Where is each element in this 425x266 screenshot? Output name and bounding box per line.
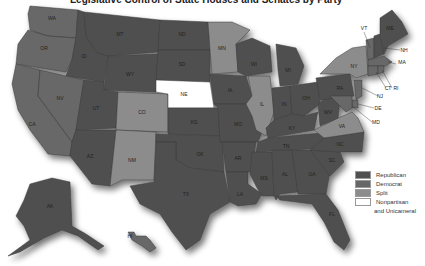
label-NM: NM: [128, 157, 136, 163]
label-PA: PA: [337, 85, 344, 91]
label-HI: HI: [128, 233, 133, 239]
legend-label-unicameral: and Unicameral: [355, 207, 416, 215]
legend-item-democrat: Democrat: [355, 180, 416, 188]
label-IN: IN: [282, 101, 287, 107]
label-AL: AL: [282, 171, 288, 177]
legend-swatch-nonpartisan: [355, 198, 371, 206]
label-CO: CO: [138, 109, 146, 115]
label-NY: NY: [351, 63, 359, 69]
state-CT[interactable]: [368, 66, 378, 76]
label-KS: KS: [191, 119, 198, 125]
label-SD: SD: [179, 61, 186, 67]
label-MN: MN: [218, 45, 226, 51]
legend-item-split: Split: [355, 189, 416, 197]
label-ND: ND: [178, 31, 186, 37]
label-MI: MI: [285, 67, 291, 73]
label-AK: AK: [47, 203, 54, 209]
label-LA: LA: [237, 191, 244, 197]
label-OH: OH: [302, 95, 310, 101]
state-AK[interactable]: [8, 178, 104, 256]
legend-label-democrat: Democrat: [376, 181, 402, 187]
legend-label-nonpartisan: Nonpartisan: [376, 199, 408, 205]
label-WV: WV: [324, 109, 333, 115]
map-legend: Republican Democrat Split Nonpartisan an…: [355, 171, 416, 215]
label-MT: MT: [116, 31, 123, 37]
state-MI[interactable]: [276, 44, 304, 86]
state-RI[interactable]: [378, 66, 384, 74]
label-OK: OK: [196, 151, 204, 157]
label-KY: KY: [289, 125, 296, 131]
label-CT: CT: [385, 85, 392, 91]
label-IA: IA: [228, 87, 233, 93]
label-NE: NE: [181, 91, 189, 97]
label-UT: UT: [93, 105, 100, 111]
legend-swatch-democrat: [355, 180, 371, 188]
label-TX: TX: [183, 191, 190, 197]
label-GA: GA: [308, 171, 316, 177]
label-MA: MA: [398, 59, 406, 65]
label-WA: WA: [48, 15, 57, 21]
label-NV: NV: [57, 95, 65, 101]
legend-label-split: Split: [376, 190, 388, 196]
legend-item-nonpartisan: Nonpartisan: [355, 198, 416, 206]
label-WY: WY: [126, 71, 135, 77]
label-DE: DE: [375, 105, 383, 111]
label-MS: MS: [260, 175, 268, 181]
label-OR: OR: [40, 45, 48, 51]
label-CA: CA: [29, 121, 37, 127]
label-NC: NC: [336, 141, 344, 147]
label-MD: MD: [372, 119, 380, 125]
label-IL: IL: [260, 101, 264, 107]
label-SC: SC: [329, 157, 336, 163]
state-WI[interactable]: [236, 38, 272, 76]
legend-swatch-republican: [355, 171, 371, 179]
state-SD[interactable]: [156, 50, 210, 84]
label-VA: VA: [339, 123, 346, 129]
label-TN: TN: [283, 143, 290, 149]
us-state-map: WA OR CA ID NV MT WY UT CO AZ NM ND SD N…: [0, 0, 425, 266]
legend-item-republican: Republican: [355, 171, 416, 179]
state-NY[interactable]: [320, 46, 368, 78]
legend-swatch-split: [355, 189, 371, 197]
label-MO: MO: [234, 121, 242, 127]
legend-label-republican: Republican: [376, 172, 406, 178]
label-FL: FL: [329, 211, 335, 217]
label-VT: VT: [361, 25, 367, 31]
label-WI: WI: [251, 61, 257, 67]
label-ME: ME: [386, 25, 394, 31]
label-RI: RI: [394, 85, 399, 91]
state-FL[interactable]: [276, 194, 350, 250]
label-NH: NH: [400, 47, 408, 53]
label-AZ: AZ: [87, 153, 93, 159]
state-VT[interactable]: [366, 38, 374, 60]
label-AR: AR: [235, 155, 242, 161]
state-NJ[interactable]: [354, 80, 362, 100]
label-ID: ID: [82, 53, 87, 59]
